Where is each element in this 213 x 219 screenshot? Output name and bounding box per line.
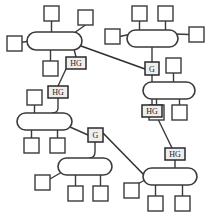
network-topology-diagram: HGHGGHGGHG (0, 0, 213, 219)
edge-hg2-bus3 (52, 98, 58, 113)
edge-hg1-hg2 (58, 69, 66, 86)
node-bus6-left[interactable] (124, 183, 139, 198)
edge-g2-bus5 (89, 142, 95, 158)
bus-top-left[interactable] (27, 32, 82, 50)
node-bus3-bottom-mid[interactable] (50, 138, 65, 153)
home-gateway-4[interactable]: HG (165, 148, 185, 160)
node-bus5-bottom-left[interactable] (68, 186, 83, 201)
node-bus2-right[interactable] (189, 27, 204, 42)
node-bus5-left[interactable] (35, 175, 50, 190)
home-gateway-2[interactable]: HG (48, 86, 68, 98)
home-gateway-3-box[interactable] (142, 105, 162, 117)
edge-hg3-hg4 (157, 117, 172, 148)
home-gateway-1[interactable]: HG (66, 57, 86, 69)
bus-middle-right[interactable] (143, 82, 195, 99)
node-bus3-top[interactable] (27, 90, 42, 105)
diagram-canvas: HGHGGHGGHG (0, 0, 213, 219)
home-gateway-3[interactable]: HG (142, 105, 162, 117)
node-bus1-left[interactable] (7, 36, 22, 51)
trunk-bus1-g1 (81, 46, 145, 69)
node-bus5-bottom-mid[interactable] (93, 186, 108, 201)
node-bus2-left[interactable] (105, 29, 120, 44)
node-bus2-top-right[interactable] (158, 6, 173, 21)
bus-layer (17, 30, 197, 185)
node-bus3-bottom-left[interactable] (24, 138, 39, 153)
node-bus6-bottom-mid[interactable] (175, 196, 190, 211)
node-bus4-bottom-mid[interactable] (172, 105, 187, 120)
edge-bus3-g2 (70, 127, 88, 135)
node-bus4-top[interactable] (166, 58, 181, 73)
gateway-2[interactable]: G (88, 128, 103, 142)
bus-middle-left[interactable] (17, 113, 72, 130)
bus-top-right[interactable] (127, 30, 178, 47)
node-bus1-bottom[interactable] (43, 61, 58, 76)
node-bus1-top-right[interactable] (78, 10, 93, 25)
node-bus2-top-left[interactable] (132, 6, 147, 21)
bus-bottom-right[interactable] (143, 168, 197, 185)
node-bus6-bottom-left[interactable] (148, 196, 163, 211)
gateway-1-box[interactable] (145, 62, 159, 75)
gateway-2-box[interactable] (88, 128, 103, 142)
home-gateway-2-box[interactable] (48, 86, 68, 98)
node-bus1-top-left[interactable] (44, 6, 59, 21)
home-gateway-4-box[interactable] (165, 148, 185, 160)
gateway-1[interactable]: G (145, 62, 159, 75)
home-gateway-1-box[interactable] (66, 57, 86, 69)
bus-bottom-left[interactable] (58, 158, 112, 175)
